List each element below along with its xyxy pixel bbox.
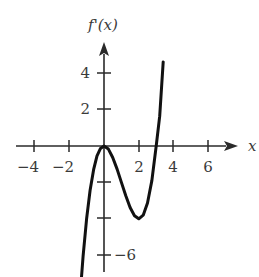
derivative-graph: −4 −2 2 4 6 4 2 −6 f'(x) x (0, 0, 259, 277)
x-tick-label: 4 (168, 158, 178, 176)
y-tick-label: −6 (114, 246, 136, 264)
x-axis-label: x (248, 137, 257, 155)
y-axis-arrow-icon (99, 42, 109, 56)
y-axis-label: f'(x) (87, 16, 118, 34)
derivative-curve (81, 62, 163, 277)
x-axis-arrow-icon (224, 141, 238, 151)
x-tick-label: −4 (17, 158, 39, 176)
y-tick-label: 2 (80, 100, 90, 118)
y-tick-label: 4 (80, 64, 90, 82)
x-tick-label: 6 (203, 158, 213, 176)
x-tick-label: −2 (52, 158, 74, 176)
x-tick-label: 2 (134, 158, 144, 176)
